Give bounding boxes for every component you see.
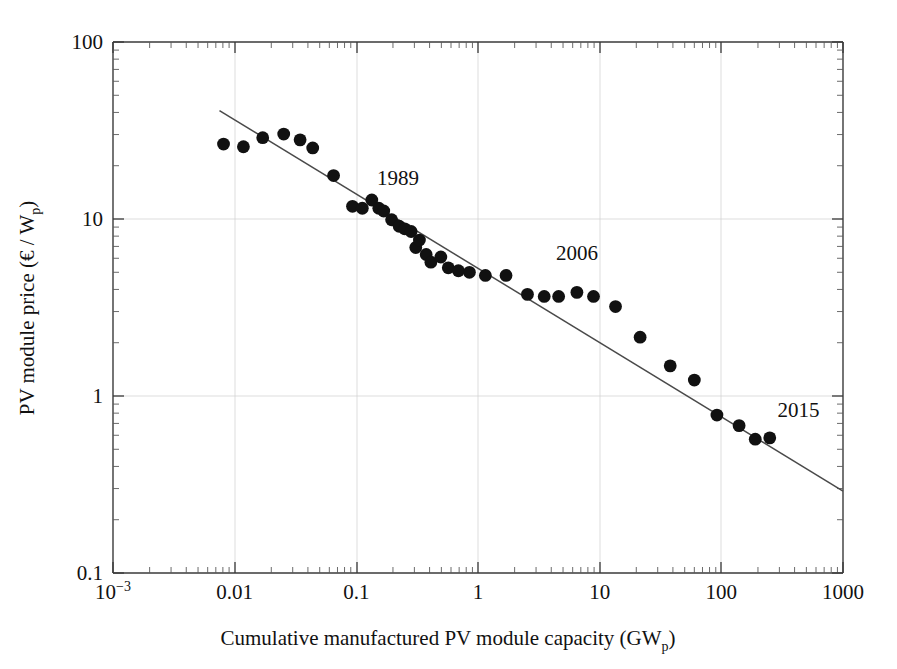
- data-point: [237, 140, 250, 153]
- x-tick-label: 0.01: [216, 580, 253, 604]
- data-point: [571, 286, 584, 299]
- data-point: [463, 266, 476, 279]
- data-point: [413, 234, 426, 247]
- data-point: [256, 131, 269, 144]
- data-point: [538, 290, 551, 303]
- pv-price-experience-curve-chart: 10−30.010.11101001000 0.1110100 19892006…: [0, 0, 897, 669]
- data-point: [763, 431, 776, 444]
- x-axis-title: Cumulative manufactured PV module capaci…: [220, 626, 675, 654]
- x-tick-label: 1: [473, 580, 484, 604]
- y-tick-label: 0.1: [77, 561, 103, 585]
- y-tick-label: 1: [93, 384, 104, 408]
- data-point: [479, 269, 492, 282]
- y-axis-tick-labels: 0.1110100: [72, 30, 104, 585]
- data-point: [500, 269, 513, 282]
- x-tick-label: 100: [706, 580, 738, 604]
- data-point: [664, 359, 677, 372]
- data-point: [327, 169, 340, 182]
- y-axis-title: PV module price (€ / Wp): [15, 201, 43, 415]
- x-tick-label: 1000: [822, 580, 864, 604]
- figure-container: 10−30.010.11101001000 0.1110100 19892006…: [0, 0, 897, 669]
- y-tick-label: 100: [72, 30, 104, 54]
- x-tick-label: 10: [589, 580, 610, 604]
- annotation-2006: 2006: [556, 241, 598, 265]
- data-point: [521, 288, 534, 301]
- x-tick-label: 0.1: [343, 580, 369, 604]
- data-point: [217, 138, 230, 151]
- data-point: [688, 374, 701, 387]
- data-point: [277, 128, 290, 141]
- data-point: [306, 142, 319, 155]
- annotation-1989: 1989: [377, 166, 419, 190]
- data-point: [749, 433, 762, 446]
- y-tick-label: 10: [82, 207, 103, 231]
- data-point: [587, 290, 600, 303]
- annotation-2015: 2015: [777, 398, 819, 422]
- data-point: [434, 251, 447, 264]
- data-point: [552, 290, 565, 303]
- x-axis-tick-labels: 10−30.010.11101001000: [95, 579, 864, 604]
- data-point: [634, 331, 647, 344]
- data-point: [609, 300, 622, 313]
- data-point: [733, 419, 746, 432]
- data-point: [294, 133, 307, 146]
- data-point: [452, 264, 465, 277]
- data-point: [711, 409, 724, 422]
